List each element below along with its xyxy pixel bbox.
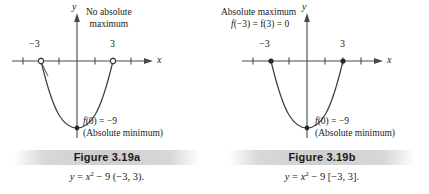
x-tick-label-3-a: 3: [110, 38, 115, 49]
function-value: (0) = −9: [318, 116, 349, 126]
equation-rest: − 9 [−3, 3].: [309, 171, 359, 182]
annotation-line-2: maximum: [86, 19, 132, 31]
function-value: (−3) = f(3) = 0: [234, 19, 290, 29]
plot-area-b: −3 3 x y Absolute maximum f(−3) = f(3) =…: [215, 0, 429, 146]
endpoint-open-left-a: [38, 58, 43, 63]
annotation-absolute-minimum-b: f(0) = −9 (Absolute minimum): [315, 116, 395, 139]
equation-equals: =: [74, 171, 85, 182]
x-axis-b: [242, 58, 383, 64]
endpoint-open-right-a: [110, 58, 115, 63]
caption-title-a: Figure 3.19a: [14, 151, 200, 163]
vertex-marker-b: [305, 126, 310, 131]
annotation-no-absolute-maximum-a: No absolute maximum: [86, 7, 132, 30]
endpoint-filled-left-b: [268, 58, 273, 63]
annotation-absolute-minimum-a: f(0) = −9 (Absolute minimum): [83, 116, 163, 139]
x-tick-label-3-b: 3: [340, 38, 345, 49]
endpoint-filled-right-b: [340, 58, 345, 63]
figure-panel-a: −3 3 x y No absolute maximum f(0) = −9 (…: [0, 0, 214, 194]
x-tick-label-neg3-b: −3: [259, 38, 270, 49]
caption-equation-b: y = x2 − 9 [−3, 3].: [229, 171, 415, 182]
annotation-line-1: No absolute: [86, 7, 132, 19]
equation-equals: =: [289, 171, 300, 182]
y-axis-label-a: y: [72, 1, 76, 12]
plot-area-a: −3 3 x y No absolute maximum f(0) = −9 (…: [0, 0, 214, 146]
vertex-marker-a: [75, 126, 80, 131]
y-axis-label-b: y: [302, 1, 306, 12]
annotation-line-2: (Absolute minimum): [83, 128, 163, 140]
figure-panel-b: −3 3 x y Absolute maximum f(−3) = f(3) =…: [215, 0, 429, 194]
x-axis-a: [12, 58, 153, 64]
function-value: (0) = −9: [86, 116, 117, 126]
annotation-line-2: f(−3) = f(3) = 0: [221, 19, 296, 31]
annotation-line-1: Absolute maximum: [221, 7, 296, 19]
x-axis-label-b: x: [387, 54, 391, 65]
annotation-absolute-maximum-b: Absolute maximum f(−3) = f(3) = 0: [221, 7, 296, 30]
x-tick-label-neg3-a: −3: [29, 38, 40, 49]
caption-equation-a: y = x2 − 9 (−3, 3).: [14, 171, 200, 182]
y-axis-a: [74, 13, 80, 138]
equation-rest: − 9 (−3, 3).: [94, 171, 144, 182]
figure-pair-container: −3 3 x y No absolute maximum f(0) = −9 (…: [0, 0, 429, 194]
annotation-line-1: f(0) = −9: [83, 116, 163, 128]
annotation-line-2: (Absolute minimum): [315, 128, 395, 140]
x-axis-label-a: x: [157, 54, 161, 65]
caption-title-b: Figure 3.19b: [229, 151, 415, 163]
annotation-line-1: f(0) = −9: [315, 116, 395, 128]
y-axis-b: [304, 13, 310, 138]
